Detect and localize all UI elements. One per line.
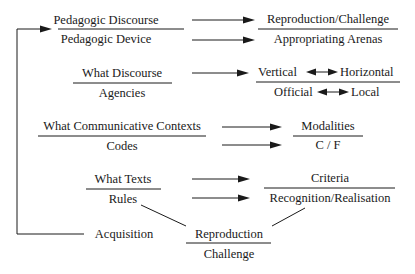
official-label: Official — [274, 85, 313, 99]
modalities-label: Modalities — [301, 119, 355, 133]
outcome-reproduction-challenge: Reproduction Challenge — [186, 227, 271, 261]
arrow-right-icon — [238, 195, 250, 202]
row-pedagogic-discourse: Pedagogic Discourse Pedagogic Device Rep… — [53, 12, 398, 46]
codes-label: Codes — [106, 139, 137, 153]
what-texts-label: What Texts — [95, 172, 152, 186]
criteria-label: Criteria — [311, 171, 350, 185]
c-f-label: C / F — [315, 138, 340, 152]
local-label: Local — [351, 85, 380, 99]
horizontal-label: Horizontal — [340, 65, 394, 79]
arrow-right-icon — [237, 70, 249, 77]
row-what-texts: What Texts Rules Criteria Recognition/Re… — [86, 171, 395, 206]
arrow-right-icon — [238, 176, 250, 183]
recognition-realisation-label: Recognition/Realisation — [270, 191, 392, 205]
realisation-to-outcome-connector — [272, 208, 305, 226]
row-what-discourse: What Discourse Agencies Vertical Horizon… — [73, 65, 400, 100]
arrow-right-icon — [270, 142, 282, 149]
arrow-right-icon — [243, 37, 255, 44]
feedback-arrow-icon — [40, 26, 52, 33]
double-arrow-icon — [317, 89, 349, 96]
agencies-label: Agencies — [99, 86, 146, 100]
reproduction-label: Reproduction — [195, 227, 264, 241]
rules-label: Rules — [109, 192, 138, 206]
pedagogic-device-diagram: Pedagogic Discourse Pedagogic Device Rep… — [0, 0, 415, 274]
what-discourse-label: What Discourse — [82, 66, 163, 80]
acquisition-label: Acquisition — [95, 227, 154, 241]
pedagogic-device-label: Pedagogic Device — [61, 32, 152, 46]
challenge-label: Challenge — [204, 247, 255, 261]
double-arrow-icon — [306, 69, 338, 76]
appropriating-arenas-label: Appropriating Arenas — [274, 32, 383, 46]
arrow-right-icon — [243, 17, 255, 24]
reproduction-challenge-label: Reproduction/Challenge — [267, 12, 390, 26]
vertical-label: Vertical — [258, 65, 297, 79]
pedagogic-discourse-label: Pedagogic Discourse — [53, 13, 159, 27]
rules-to-outcome-connector — [141, 205, 186, 226]
row-communicative-contexts: What Communicative Contexts Codes Modali… — [38, 119, 363, 153]
arrow-right-icon — [270, 124, 282, 131]
what-communicative-contexts-label: What Communicative Contexts — [43, 119, 201, 133]
